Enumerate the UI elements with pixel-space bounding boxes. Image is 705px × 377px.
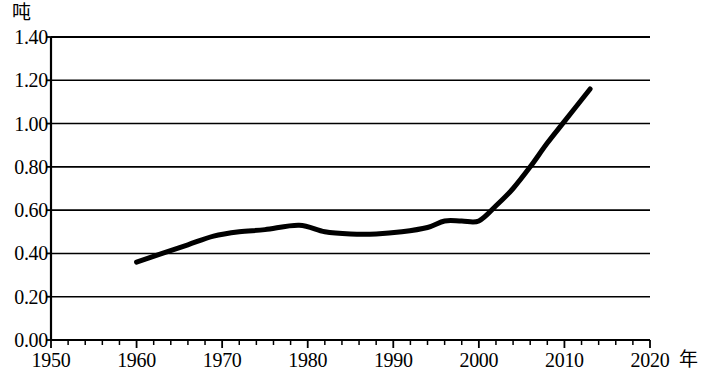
- gridlines-group: [51, 37, 650, 340]
- x-axis-tick-label: 2000: [444, 350, 514, 370]
- x-axis-tick-label: 1980: [273, 350, 343, 370]
- y-axis-tick-label: 1.00: [0, 114, 48, 134]
- y-axis-tick-label: 0.40: [0, 243, 48, 263]
- line-chart: 吨 年 0.000.200.400.600.801.001.201.40 195…: [0, 0, 705, 377]
- x-axis-tick-label: 1970: [187, 350, 257, 370]
- y-axis-tick-label: 1.40: [0, 27, 48, 47]
- x-axis-tick-label: 2020: [615, 350, 685, 370]
- y-axis-tick-label: 0.00: [0, 330, 48, 350]
- x-axis-tick-label: 1950: [16, 350, 86, 370]
- x-axis-major-ticks-group: [51, 340, 650, 348]
- data-series-line: [137, 89, 591, 262]
- x-axis-tick-label: 2010: [529, 350, 599, 370]
- y-axis-tick-label: 1.20: [0, 70, 48, 90]
- x-axis-tick-label: 1960: [102, 350, 172, 370]
- y-axis-tick-label: 0.60: [0, 200, 48, 220]
- y-axis-tick-label: 0.20: [0, 287, 48, 307]
- y-axis-tick-label: 0.80: [0, 157, 48, 177]
- x-axis-tick-label: 1990: [358, 350, 428, 370]
- chart-plot-area: [0, 0, 705, 377]
